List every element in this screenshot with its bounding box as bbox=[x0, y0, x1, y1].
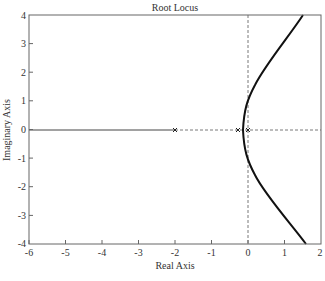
y-tick-label: 3 bbox=[21, 38, 26, 49]
x-tick-label: -4 bbox=[98, 247, 106, 258]
y-axis-label: Imaginary Axis bbox=[1, 99, 12, 161]
x-tick-label: 0 bbox=[246, 247, 251, 258]
x-tick-label: -3 bbox=[134, 247, 142, 258]
y-tick-label: -2 bbox=[18, 181, 26, 192]
root-locus-chart: Root Locus -6 -5 -4 -3 -2 -1 0 1 2 bbox=[0, 0, 325, 281]
x-tick-label: -2 bbox=[171, 247, 179, 258]
x-ticks: -6 -5 -4 -3 -2 -1 0 1 2 bbox=[25, 240, 323, 258]
upper-branch bbox=[243, 15, 303, 130]
x-tick-label: 2 bbox=[318, 247, 323, 258]
y-tick-label: 4 bbox=[21, 10, 26, 21]
y-tick-label: -1 bbox=[18, 153, 26, 164]
x-tick-label: 1 bbox=[282, 247, 287, 258]
y-tick-label: -4 bbox=[18, 238, 26, 249]
lower-branch bbox=[243, 130, 306, 244]
x-tick-label: -5 bbox=[61, 247, 69, 258]
chart-title: Root Locus bbox=[152, 2, 198, 13]
y-tick-label: -3 bbox=[18, 210, 26, 221]
y-tick-label: 1 bbox=[21, 95, 26, 106]
y-tick-label: 2 bbox=[21, 67, 26, 78]
x-tick-label: -6 bbox=[25, 247, 33, 258]
y-ticks: 4 3 2 1 0 -1 -2 -3 -4 bbox=[18, 10, 33, 249]
x-axis-label: Real Axis bbox=[155, 260, 194, 271]
y-tick-label: 0 bbox=[21, 124, 26, 135]
x-tick-label: -1 bbox=[207, 247, 215, 258]
